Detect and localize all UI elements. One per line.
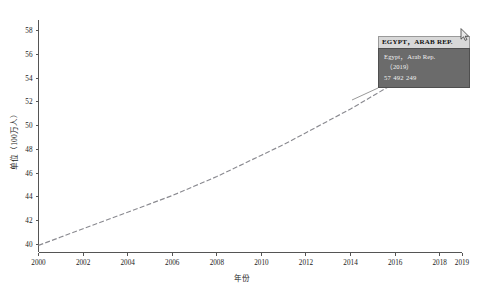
y-tick-label: 50 <box>25 122 33 130</box>
mouse-cursor-icon <box>460 28 470 41</box>
x-tick-label: 2000 <box>31 259 46 267</box>
x-tick-label: 2004 <box>120 259 135 267</box>
x-tick-label: 2019 <box>455 259 470 267</box>
tooltip-header-label: EGYPT，ARAB REP. <box>378 36 470 48</box>
y-tick-label: 58 <box>25 27 33 35</box>
chart-container: 40424446485052545658 2000200220042006200… <box>0 0 479 296</box>
tooltip-country-name: Egypt，Arab Rep. <box>384 52 465 62</box>
x-tick-label: 2018 <box>433 259 448 267</box>
y-axis-ticks: 40424446485052545658 <box>25 27 38 249</box>
x-tick-label: 2002 <box>76 259 91 267</box>
x-tick-label: 2008 <box>210 259 225 267</box>
x-tick-label: 2012 <box>299 259 314 267</box>
data-point-tooltip[interactable]: EGYPT，ARAB REP. Egypt，Arab Rep. （2019） 5… <box>378 36 470 88</box>
x-tick-label: 2014 <box>343 259 358 267</box>
tooltip-value: 57 492 249 <box>384 73 465 83</box>
y-axis-title: 单位（100万人） <box>9 110 19 169</box>
y-tick-label: 46 <box>25 170 33 178</box>
y-tick-label: 52 <box>25 98 33 106</box>
x-axis-ticks: 2000200220042006200820102012201420162018… <box>31 253 469 267</box>
x-tick-label: 2006 <box>165 259 180 267</box>
x-tick-label: 2016 <box>388 259 403 267</box>
y-tick-label: 40 <box>25 241 33 249</box>
tooltip-body: Egypt，Arab Rep. （2019） 57 492 249 <box>378 48 470 88</box>
y-tick-label: 48 <box>25 146 33 154</box>
x-axis-title: 年份 <box>234 273 250 283</box>
tooltip-leader-line <box>352 88 378 100</box>
y-tick-label: 54 <box>25 75 33 83</box>
tooltip-year: （2019） <box>384 62 465 72</box>
y-tick-label: 42 <box>25 217 33 225</box>
y-tick-label: 44 <box>25 193 33 201</box>
y-tick-label: 56 <box>25 51 33 59</box>
x-tick-label: 2010 <box>254 259 269 267</box>
